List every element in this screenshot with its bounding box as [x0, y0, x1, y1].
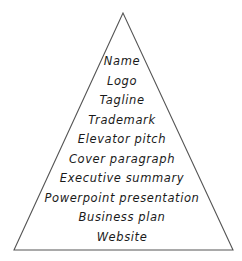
level-cover-paragraph: Cover paragraph — [69, 150, 175, 170]
level-powerpoint-presentation: Powerpoint presentation — [44, 189, 199, 209]
level-elevator-pitch: Elevator pitch — [78, 130, 166, 150]
level-logo: Logo — [107, 72, 137, 92]
level-website: Website — [97, 228, 148, 248]
pyramid-levels: Name Logo Tagline Trademark Elevator pit… — [0, 52, 242, 247]
level-trademark: Trademark — [88, 111, 155, 131]
level-name: Name — [104, 52, 140, 72]
level-executive-summary: Executive summary — [60, 169, 184, 189]
level-business-plan: Business plan — [79, 208, 166, 228]
pyramid-diagram: Name Logo Tagline Trademark Elevator pit… — [0, 0, 242, 261]
level-tagline: Tagline — [99, 91, 144, 111]
